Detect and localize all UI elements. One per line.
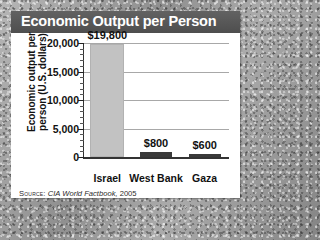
bar-value-label: $19,800 (87, 29, 127, 41)
x-axis-line (83, 157, 229, 159)
y-axis-minor-tick (80, 117, 84, 118)
y-axis-major-tick (78, 100, 84, 101)
bar-israel (90, 44, 124, 157)
y-axis-tick-label: 10,000 (47, 94, 79, 106)
y-axis-minor-tick (80, 66, 84, 67)
y-axis-minor-tick (80, 83, 84, 84)
source-year: 2005 (120, 189, 137, 198)
x-axis-label-israel: Israel (94, 172, 121, 184)
y-axis-minor-tick (80, 106, 84, 107)
y-axis-minor-tick (80, 94, 84, 95)
y-axis-minor-tick (80, 77, 84, 78)
plot-region: $19,800$800$600 (83, 33, 229, 173)
source-note: Source: CIA World Factbook, 2005 (19, 189, 137, 198)
y-axis-minor-tick (80, 134, 84, 135)
y-axis-major-tick (78, 129, 84, 130)
y-axis-minor-tick (80, 111, 84, 112)
y-axis-minor-tick (80, 89, 84, 90)
y-axis-minor-tick (80, 151, 84, 152)
y-axis-major-tick (78, 43, 84, 44)
y-axis-major-tick (78, 157, 84, 158)
y-axis-minor-tick (80, 140, 84, 141)
y-axis-minor-tick (80, 123, 84, 124)
x-axis-label-gaza: Gaza (192, 172, 217, 184)
y-axis-tick-label: 20,000 (47, 37, 79, 49)
y-axis-minor-tick (80, 54, 84, 55)
source-label: Source: (19, 189, 46, 198)
y-axis-tick-labels: 20,00015,00010,0005,0000 (37, 33, 82, 173)
x-axis-label-west-bank: West Bank (129, 172, 183, 184)
bar-value-label: $800 (144, 137, 168, 149)
y-axis-tick-label: 5,000 (53, 123, 79, 135)
source-work: CIA World Factbook, (48, 189, 118, 198)
x-axis-category-labels: IsraelWest BankGaza (83, 172, 229, 188)
chart-plot-area: Economic output per person (U.S. dollars… (11, 33, 240, 198)
y-axis-minor-tick (80, 60, 84, 61)
y-axis-minor-tick (80, 49, 84, 50)
y-axis-tick-label: 15,000 (47, 66, 79, 78)
y-axis-minor-tick (80, 146, 84, 147)
page-title: Economic Output per Person (21, 13, 216, 29)
chart-card: Economic Output per Person Economic outp… (11, 11, 240, 198)
y-axis-major-tick (78, 72, 84, 73)
bar-value-label: $600 (192, 139, 216, 151)
